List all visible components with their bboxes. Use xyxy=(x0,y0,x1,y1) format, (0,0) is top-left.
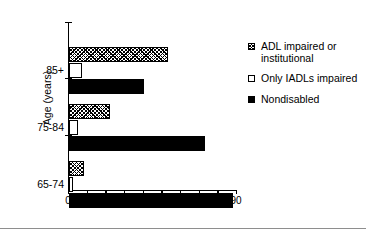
x-axis-tick xyxy=(87,190,88,194)
plot-area: 0102030405060708090 xyxy=(68,22,236,190)
chart-figure: 0102030405060708090 65-7475-8485+ Age (y… xyxy=(0,0,366,246)
x-axis-tick xyxy=(161,190,162,194)
x-axis-line xyxy=(68,190,236,191)
legend-item-label: Nondisabled xyxy=(261,94,319,106)
legend-swatch-icon xyxy=(248,96,255,103)
bar xyxy=(69,47,168,62)
legend-item-label: ADL impaired or institutional xyxy=(261,41,364,64)
bar xyxy=(69,63,82,78)
y-axis-title: Age (years) xyxy=(41,43,53,153)
legend-item: Nondisabled xyxy=(248,94,364,106)
legend-item: Only IADLs impaired xyxy=(248,73,364,85)
bar xyxy=(69,161,84,176)
y-axis-category-labels: 65-7475-8485+ xyxy=(0,0,68,246)
x-axis-tick xyxy=(236,190,237,194)
x-axis-tick xyxy=(199,190,200,194)
x-axis-tick xyxy=(105,190,106,194)
legend-swatch-icon xyxy=(248,43,255,50)
bar xyxy=(69,177,73,192)
legend-item: ADL impaired or institutional xyxy=(248,41,364,64)
x-axis-tick xyxy=(124,190,125,194)
y-axis-tick-label: 65-74 xyxy=(37,179,64,190)
legend-item-label: Only IADLs impaired xyxy=(261,73,357,85)
figure-bottom-rule xyxy=(0,228,366,229)
x-axis-tick xyxy=(217,190,218,194)
x-axis-title: Percent xyxy=(68,196,236,208)
bar xyxy=(69,104,110,119)
bar xyxy=(69,120,78,135)
bar xyxy=(69,136,205,151)
x-axis-tick xyxy=(143,190,144,194)
bar xyxy=(69,79,144,94)
chart-legend: ADL impaired or institutionalOnly IADLs … xyxy=(248,41,364,114)
x-axis-tick xyxy=(180,190,181,194)
x-axis-tick xyxy=(68,190,69,194)
legend-swatch-icon xyxy=(248,75,255,82)
